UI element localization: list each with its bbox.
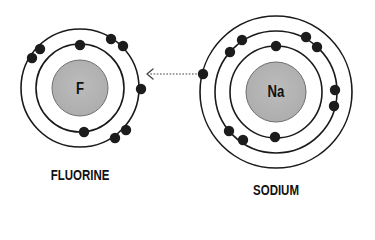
fluorine-electron — [110, 133, 120, 143]
sodium-electron — [238, 135, 248, 145]
fluorine-electron — [79, 127, 89, 137]
sodium-electron — [301, 32, 311, 42]
electron-transfer-arrow — [147, 69, 200, 79]
fluorine-electron — [75, 40, 85, 50]
fluorine-electron — [27, 53, 37, 63]
sodium-name-label: SODIUM — [227, 182, 325, 198]
sodium-electron — [312, 42, 322, 52]
sodium-electron — [330, 85, 340, 95]
fluorine-electron — [106, 34, 116, 44]
arrowhead-icon — [147, 69, 153, 79]
fluorine-name-label: FLUORINE — [31, 167, 129, 183]
fluorine-electron — [121, 125, 131, 135]
fluorine-symbol-label: F — [64, 80, 97, 98]
sodium-symbol-label: Na — [260, 83, 293, 101]
sodium-electron — [198, 69, 208, 79]
sodium-electron — [225, 47, 235, 57]
sodium-electron — [329, 101, 339, 111]
fluorine-electron — [118, 41, 128, 51]
fluorine-electron — [136, 84, 146, 94]
sodium-electron — [271, 41, 281, 51]
fluorine-electron — [35, 44, 45, 54]
sodium-electron — [224, 126, 234, 136]
sodium-electron — [237, 35, 247, 45]
sodium-electron — [270, 132, 280, 142]
